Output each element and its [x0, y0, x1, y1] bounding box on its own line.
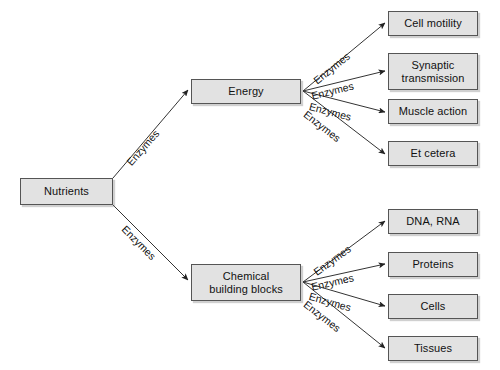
- node-energy-output-3[interactable]: Et cetera: [388, 141, 478, 166]
- nutrients-to-building-blocks: [113, 205, 188, 280]
- node-energy-output-0[interactable]: Cell motility: [388, 11, 478, 36]
- flow-diagram: EnzymesEnzymesEnzymesEnzymesEnzymesEnzym…: [0, 0, 500, 370]
- energy-to-et-cetera: [303, 91, 385, 154]
- node-energy-output-2[interactable]: Muscle action: [388, 99, 478, 124]
- node-energy[interactable]: Energy: [191, 79, 301, 104]
- node-block-output-3[interactable]: Tissues: [388, 336, 478, 361]
- node-chemical-building-blocks[interactable]: Chemical building blocks: [191, 264, 301, 301]
- blocks-to-cells: [303, 282, 385, 306]
- blocks-to-tissues: [303, 282, 385, 348]
- nutrients-to-energy: [113, 90, 188, 178]
- node-block-output-1[interactable]: Proteins: [388, 252, 478, 277]
- node-energy-output-1[interactable]: Synaptic transmission: [388, 53, 478, 90]
- node-block-output-2[interactable]: Cells: [388, 294, 478, 319]
- energy-to-muscle-action: [303, 91, 385, 112]
- node-block-output-0[interactable]: DNA, RNA: [388, 209, 478, 234]
- node-nutrients[interactable]: Nutrients: [20, 178, 113, 205]
